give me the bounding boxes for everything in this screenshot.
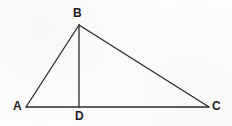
vertex-label-d: D: [75, 110, 84, 122]
geometry-figure: A B C D: [0, 0, 232, 126]
vertex-label-a: A: [13, 100, 22, 112]
triangle-diagram: [0, 0, 232, 126]
segment-bc: [79, 25, 209, 107]
segment-ab: [26, 25, 79, 107]
vertex-label-b: B: [73, 7, 82, 19]
vertex-label-c: C: [212, 100, 221, 112]
